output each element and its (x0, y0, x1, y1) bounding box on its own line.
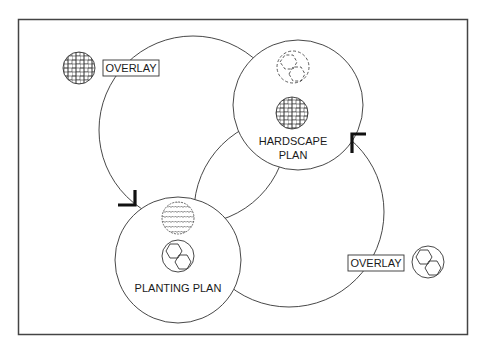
diagram-canvas: HARDSCAPE PLAN PLANTING PLAN OVERLAY OVE… (0, 0, 484, 351)
hardscape-label-line2: PLAN (279, 149, 308, 161)
dashed-hexagon-pair-icon (277, 51, 309, 83)
overlay-top-left[interactable]: OVERLAY (63, 52, 159, 84)
overlay-label: OVERLAY (105, 62, 157, 74)
hexagon-pair-icon (162, 240, 194, 272)
planting-plan-node[interactable]: PLANTING PLAN (115, 197, 241, 323)
hexagon-pair-icon (412, 246, 444, 278)
planting-label: PLANTING PLAN (135, 282, 222, 294)
arrow-to-planting-icon (118, 190, 135, 205)
wavy-pattern-icon (162, 202, 194, 234)
hardscape-plan-node[interactable]: HARDSCAPE PLAN (233, 40, 363, 170)
hardscape-label-line1: HARDSCAPE (259, 135, 327, 147)
overlay-bottom-right[interactable]: OVERLAY (348, 246, 444, 278)
brick-pattern-icon (63, 52, 95, 84)
overlay-label: OVERLAY (350, 257, 402, 269)
brick-pattern-icon (276, 97, 308, 129)
